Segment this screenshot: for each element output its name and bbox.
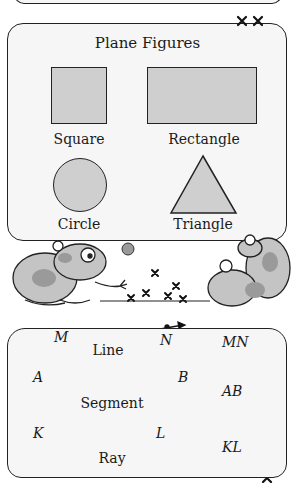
frog-right-illustration xyxy=(208,235,290,306)
jacks-scatter-icon xyxy=(128,270,186,302)
segment-notation: AB xyxy=(222,383,242,399)
ray-notation: KL xyxy=(222,439,242,455)
line-notation: MN xyxy=(222,334,249,350)
triangle-shape xyxy=(171,156,236,213)
point-k-label: K xyxy=(33,425,43,441)
ray-label: Ray xyxy=(52,450,172,466)
line-label: Line xyxy=(48,342,168,358)
frog-left-illustration xyxy=(13,241,127,305)
ball-icon xyxy=(122,243,134,255)
point-l-label: L xyxy=(156,425,165,441)
point-a-label: A xyxy=(33,369,43,385)
triangle-label: Triangle xyxy=(143,216,263,232)
jacks-icon xyxy=(238,17,262,25)
point-b-label: B xyxy=(178,369,188,385)
segment-label: Segment xyxy=(52,395,172,411)
